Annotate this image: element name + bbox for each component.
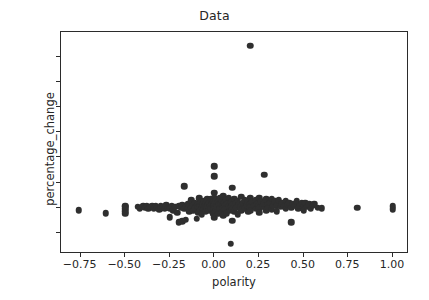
data-point — [261, 172, 268, 179]
x-tick-mark — [80, 253, 81, 257]
data-point — [354, 204, 361, 211]
data-point — [167, 214, 174, 221]
x-tick-mark — [169, 253, 170, 257]
x-tick-mark — [258, 253, 259, 257]
plot-area — [60, 31, 408, 253]
data-point — [229, 184, 236, 191]
x-tick-label: −0.50 — [107, 258, 141, 271]
data-point — [76, 207, 83, 214]
scatter-plot-figure: Data −20020406080100120 −0.75−0.50−0.250… — [0, 0, 429, 300]
data-point — [256, 209, 263, 216]
x-tick-label: −0.75 — [63, 258, 97, 271]
x-axis-label: polarity — [60, 275, 408, 289]
x-tick-label: 0.00 — [201, 258, 226, 271]
y-axis-label: percentage_change — [43, 38, 57, 260]
data-point — [122, 211, 129, 218]
x-tick-mark — [347, 253, 348, 257]
x-tick-label: 0.50 — [290, 258, 315, 271]
data-point — [211, 173, 218, 180]
chart-title: Data — [0, 8, 429, 23]
data-point — [288, 219, 295, 226]
data-point — [102, 210, 109, 217]
data-point — [229, 218, 236, 225]
data-point — [122, 204, 129, 211]
x-tick-mark — [124, 253, 125, 257]
x-tick-mark — [392, 253, 393, 257]
data-point — [247, 43, 254, 50]
data-point — [211, 163, 218, 170]
data-point — [181, 183, 188, 190]
x-tick-mark — [213, 253, 214, 257]
data-point — [183, 216, 190, 223]
data-point — [318, 205, 325, 212]
x-tick-mark — [303, 253, 304, 257]
x-tick-label: 1.00 — [380, 258, 405, 271]
x-tick-label: 0.75 — [335, 258, 360, 271]
x-tick-label: −0.25 — [152, 258, 186, 271]
data-point — [390, 206, 397, 213]
data-point — [227, 241, 234, 248]
x-tick-label: 0.25 — [246, 258, 271, 271]
